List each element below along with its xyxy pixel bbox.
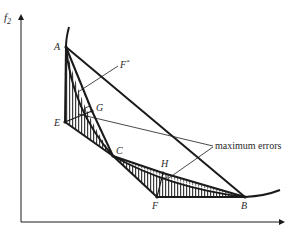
label-e: E <box>53 117 60 128</box>
label-h: H <box>160 158 169 169</box>
marker-f <box>155 195 158 198</box>
label-a: A <box>53 41 61 52</box>
label-f: F <box>151 200 159 211</box>
marker-b <box>243 195 246 198</box>
y-axis-label: f2 <box>4 11 11 26</box>
marker-h <box>161 171 164 174</box>
fstar-label: F* <box>119 58 130 70</box>
pareto-approximation-diagram: f2 A E G C H F <box>0 0 289 227</box>
max-errors-label: maximum errors <box>215 140 281 151</box>
axes: f2 <box>4 11 282 222</box>
label-c: C <box>116 145 123 156</box>
marker-g <box>90 109 93 112</box>
marker-a <box>64 45 67 48</box>
segment-a-e <box>65 47 66 122</box>
marker-c <box>111 154 114 157</box>
marker-e <box>63 120 66 123</box>
label-b: B <box>241 200 247 211</box>
label-g: G <box>96 102 103 113</box>
fstar-leader <box>78 66 118 92</box>
